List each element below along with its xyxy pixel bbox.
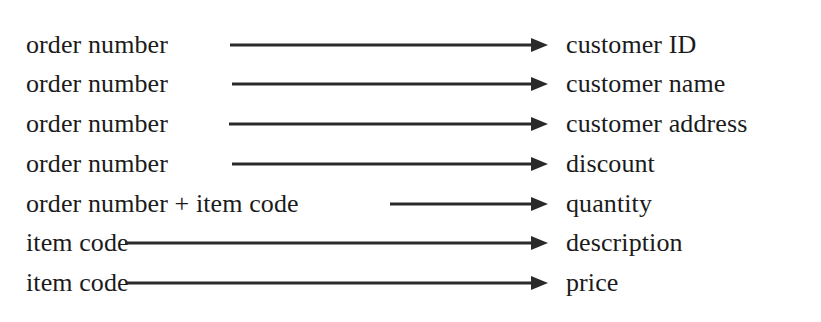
dependency-row: order numberdiscount [0,144,821,184]
determinant-label: item code [26,263,129,303]
dependency-row: item codeprice [0,263,821,303]
determinant-label: order number [26,104,168,144]
dependency-arrow-icon [232,64,548,104]
dependent-label: customer ID [566,25,696,65]
dependent-label: customer address [566,104,747,144]
determinant-label: order number [26,25,168,65]
dependent-label: price [566,263,618,303]
dependent-label: discount [566,144,655,184]
dependency-arrow-icon [390,184,548,224]
dependency-row: order numbercustomer address [0,104,821,144]
dependency-arrow-icon [232,144,548,184]
dependency-row: order numbercustomer ID [0,25,821,65]
dependency-arrow-icon [125,223,548,263]
dependency-row: order numbercustomer name [0,64,821,104]
determinant-label: order number + item code [26,184,299,224]
dependent-label: description [566,223,683,263]
dependency-arrow-icon [230,25,548,65]
functional-dependency-diagram: order numbercustomer IDorder numbercusto… [0,0,821,322]
dependency-row: order number + item codequantity [0,184,821,224]
determinant-label: order number [26,144,168,184]
dependency-arrow-icon [127,263,548,303]
dependency-row: item codedescription [0,223,821,263]
dependency-arrow-icon [229,104,548,144]
dependent-label: quantity [566,184,652,224]
determinant-label: item code [26,223,129,263]
determinant-label: order number [26,64,168,104]
dependent-label: customer name [566,64,725,104]
